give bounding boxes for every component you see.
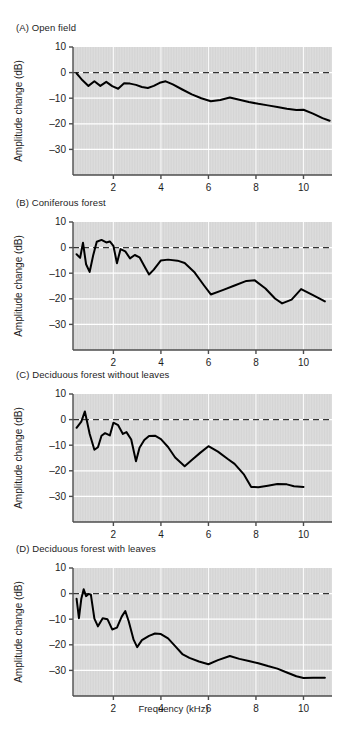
svg-text:2: 2 bbox=[111, 182, 117, 193]
svg-text:10: 10 bbox=[55, 388, 67, 399]
svg-text:–20: –20 bbox=[49, 293, 66, 304]
svg-text:0: 0 bbox=[60, 242, 66, 253]
svg-text:–30: –30 bbox=[49, 491, 66, 502]
svg-text:8: 8 bbox=[253, 357, 259, 368]
svg-text:6: 6 bbox=[206, 529, 212, 540]
figure-container: (A) Open field 100–10–20–30246810Amplitu… bbox=[0, 0, 347, 744]
svg-text:2: 2 bbox=[111, 529, 117, 540]
svg-text:–10: –10 bbox=[49, 268, 66, 279]
svg-text:10: 10 bbox=[298, 357, 310, 368]
svg-text:10: 10 bbox=[298, 182, 310, 193]
svg-text:2: 2 bbox=[111, 357, 117, 368]
svg-text:–10: –10 bbox=[49, 440, 66, 451]
svg-text:8: 8 bbox=[253, 529, 259, 540]
svg-text:0: 0 bbox=[60, 414, 66, 425]
svg-text:–10: –10 bbox=[49, 614, 66, 625]
svg-text:10: 10 bbox=[298, 529, 310, 540]
svg-text:4: 4 bbox=[158, 357, 164, 368]
svg-text:6: 6 bbox=[206, 357, 212, 368]
svg-text:–20: –20 bbox=[49, 639, 66, 650]
svg-text:10: 10 bbox=[55, 41, 67, 52]
svg-text:10: 10 bbox=[55, 562, 67, 573]
svg-text:4: 4 bbox=[158, 182, 164, 193]
panel-c-plot: 100–10–20–30246810Amplitude change (dB) bbox=[0, 382, 347, 547]
svg-text:–30: –30 bbox=[49, 144, 66, 155]
svg-text:–20: –20 bbox=[49, 465, 66, 476]
svg-text:Amplitude change (dB): Amplitude change (dB) bbox=[13, 235, 24, 337]
svg-text:–10: –10 bbox=[49, 93, 66, 104]
svg-text:4: 4 bbox=[158, 529, 164, 540]
svg-text:0: 0 bbox=[60, 588, 66, 599]
x-axis-label: Frequency (kHz) bbox=[0, 703, 347, 714]
panel-d-title: (D) Deciduous forest with leaves bbox=[16, 543, 156, 554]
panel-b-title: (B) Coniferous forest bbox=[16, 197, 106, 208]
panel-b-plot: 100–10–20–30246810Amplitude change (dB) bbox=[0, 210, 347, 375]
svg-text:–30: –30 bbox=[49, 665, 66, 676]
panel-d-plot: 100–10–20–30246810Amplitude change (dB) bbox=[0, 556, 347, 721]
svg-text:Amplitude change (dB): Amplitude change (dB) bbox=[13, 60, 24, 162]
svg-text:–30: –30 bbox=[49, 319, 66, 330]
svg-text:10: 10 bbox=[55, 216, 67, 227]
panel-a-plot: 100–10–20–30246810Amplitude change (dB) bbox=[0, 35, 347, 200]
svg-text:Amplitude change (dB): Amplitude change (dB) bbox=[13, 581, 24, 683]
svg-text:Amplitude change (dB): Amplitude change (dB) bbox=[13, 407, 24, 509]
svg-text:6: 6 bbox=[206, 182, 212, 193]
svg-text:8: 8 bbox=[253, 182, 259, 193]
panel-c-title: (C) Deciduous forest without leaves bbox=[16, 369, 169, 380]
svg-text:0: 0 bbox=[60, 67, 66, 78]
panel-a-title: (A) Open field bbox=[16, 22, 76, 33]
svg-text:–20: –20 bbox=[49, 118, 66, 129]
